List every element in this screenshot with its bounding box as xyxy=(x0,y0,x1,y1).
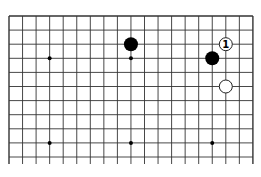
go-board: 1 xyxy=(0,0,261,177)
white-stone xyxy=(219,80,232,93)
stones: 1 xyxy=(124,37,232,93)
star-point xyxy=(129,141,133,145)
white-stone: 1 xyxy=(219,38,232,51)
move-number: 1 xyxy=(222,39,229,50)
star-point xyxy=(129,56,133,60)
star-point xyxy=(48,56,52,60)
black-stone xyxy=(124,37,138,51)
star-point xyxy=(210,141,214,145)
black-stone xyxy=(205,51,219,65)
star-point xyxy=(48,141,52,145)
